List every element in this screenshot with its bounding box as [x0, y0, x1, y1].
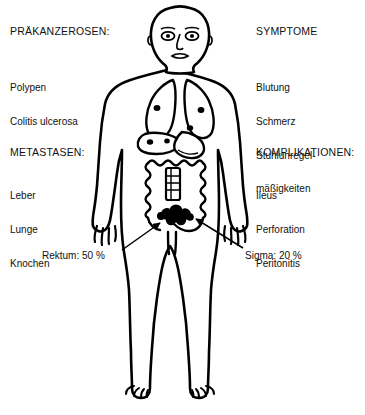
lung-metastasis-2 — [198, 107, 205, 113]
komplikationen-list: Ileus Perforation Peritonitis — [256, 168, 305, 291]
komplikationen-heading: KOMPLIKATIONEN: — [256, 146, 355, 158]
prakanzerosen-heading: PRÄKANZEROSEN: — [10, 25, 110, 37]
list-item: Ileus — [256, 190, 305, 201]
callout-label-rektum: Rektum: 50 % — [42, 250, 105, 262]
liver — [138, 133, 179, 154]
liver-metastasis-2 — [164, 139, 170, 144]
list-item: Polypen — [10, 82, 78, 93]
left-finger-2 — [102, 228, 103, 245]
list-item: Perforation — [256, 224, 305, 235]
metastasen-heading: METASTASEN: — [10, 146, 85, 158]
liver-shape — [138, 133, 179, 154]
symptome-heading: SYMPTOME — [256, 25, 318, 37]
liver-metastasis-1 — [147, 139, 153, 145]
diagram-canvas: PRÄKANZEROSEN: Polypen Colitis ulcerosa … — [0, 0, 365, 415]
rectum-left-wall — [168, 232, 169, 254]
list-item: Leber — [10, 190, 49, 201]
head-outline — [151, 7, 209, 74]
left-pupil — [166, 34, 170, 38]
right-finger-2 — [237, 228, 238, 245]
list-item: Blutung — [256, 82, 315, 93]
rectum — [175, 232, 176, 254]
list-item: Colitis ulcerosa — [10, 116, 78, 127]
metastasen-list: Leber Lunge Knochen — [10, 168, 49, 291]
lung-metastasis-3 — [187, 125, 193, 131]
list-item: Lunge — [10, 224, 49, 235]
right-finger-4 — [224, 226, 225, 241]
right-pupil — [190, 34, 194, 38]
prakanzerosen-list: Polypen Colitis ulcerosa — [10, 60, 78, 150]
mouth — [172, 54, 188, 59]
callout-label-sigma: Sigma: 20 % — [245, 250, 302, 262]
left-finger-4 — [115, 226, 116, 241]
list-item: Schmerz — [256, 116, 315, 127]
lung-metastasis-1 — [154, 105, 161, 111]
